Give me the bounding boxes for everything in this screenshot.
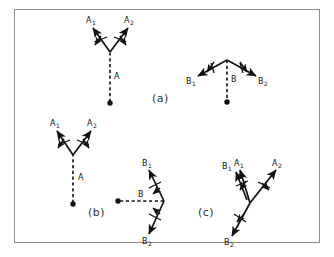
panel-c-arrow-b2 xyxy=(232,203,250,236)
panel-b-arrow-a1 xyxy=(57,131,73,155)
panel-a-arrow-a1 xyxy=(93,28,110,52)
panel-b-label-origin-a: A xyxy=(78,173,84,182)
panel-c-label-b2-sub: 2 xyxy=(230,241,234,248)
panel-b-group-a: A 1 A 2 A xyxy=(50,119,97,207)
panel-a-group-a-origin-dot xyxy=(107,100,112,105)
panel-c-arrow-a2 xyxy=(250,170,276,203)
panel-b-arrow-b1 xyxy=(149,170,164,201)
panel-c-label-a2-sub: 2 xyxy=(278,162,282,169)
panel-b-label-a2-sub: 2 xyxy=(93,122,97,129)
panel-a-group-b: B 1 B 2 B xyxy=(186,60,268,105)
panel-a-label-origin-a: A xyxy=(114,72,120,81)
panel-a-group-a: A 1 A 2 A xyxy=(86,16,134,106)
panel-a-barb-a1 xyxy=(95,36,101,45)
panel-a-label-a1-sub: 1 xyxy=(92,19,96,26)
panel-a-label-a2-sub: 2 xyxy=(130,19,134,26)
panel-b-arrow-a2 xyxy=(73,131,91,155)
panel-b-group-b: B 1 B 2 B xyxy=(115,159,164,247)
panel-b-label-b1: B xyxy=(142,159,148,168)
panel-a-label-origin-b: B xyxy=(231,75,237,84)
panel-a-label-b1: B xyxy=(186,77,192,86)
panel-c-label-b1-sub: 1 xyxy=(228,165,232,172)
panel-c-label-b2: B xyxy=(224,238,230,247)
panel-c-label-a1-sub: 1 xyxy=(240,162,244,169)
figure-canvas: A 1 A 2 A B 1 B 2 B (a) xyxy=(0,0,334,257)
panel-b-label-b1-sub: 1 xyxy=(148,162,152,169)
panel-b-label-origin-b: B xyxy=(138,190,144,199)
panel-b-label-b2-sub: 2 xyxy=(148,240,152,247)
figure-screenshot: A 1 A 2 A B 1 B 2 B (a) xyxy=(0,0,334,257)
panel-c-group: B 1 A 1 A 2 B 2 xyxy=(222,159,282,248)
panel-c-caption: (c) xyxy=(198,206,214,219)
panel-b-group-b-origin-dot xyxy=(115,198,120,203)
panel-b-label-b2: B xyxy=(142,237,148,246)
panel-a-label-b1-sub: 1 xyxy=(192,80,196,87)
panel-b-label-a1-sub: 1 xyxy=(56,122,60,129)
panel-a-arrow-a2 xyxy=(110,28,128,52)
panel-b-caption: (b) xyxy=(88,206,105,219)
panel-a-caption: (a) xyxy=(152,92,169,105)
panel-a-label-b2-sub: 2 xyxy=(264,80,268,87)
panel-b-group-a-origin-dot xyxy=(70,201,75,206)
panel-a-label-b2: B xyxy=(258,77,264,86)
panel-c-label-b1: B xyxy=(222,162,228,171)
panel-a-group-b-origin-dot xyxy=(224,99,229,104)
